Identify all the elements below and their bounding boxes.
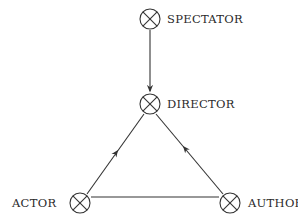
node-spectator-symbol	[140, 9, 160, 29]
diagram-canvas	[0, 0, 298, 219]
edge-author-to-director	[156, 114, 223, 194]
node-author-symbol	[220, 193, 240, 213]
label-director: DIRECTOR	[167, 97, 235, 111]
node-director-symbol	[140, 94, 160, 114]
node-actor-symbol	[70, 193, 90, 213]
label-spectator: SPECTATOR	[167, 12, 243, 26]
label-actor: ACTOR	[12, 196, 56, 210]
label-author: AUTHOR	[248, 196, 298, 210]
edge-actor-to-director	[87, 114, 144, 194]
